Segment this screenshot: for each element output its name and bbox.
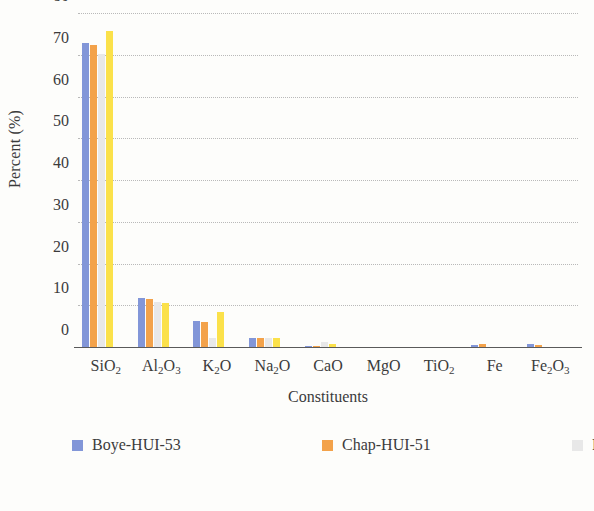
bar-group: CaO [300, 14, 356, 348]
y-axis-tick-label: 70 [53, 29, 69, 47]
bar [146, 299, 153, 348]
legend-label: Chap-HUI-51 [342, 436, 431, 454]
y-axis-tick-label: 80 [53, 0, 69, 5]
bar [98, 54, 105, 348]
bar [154, 302, 161, 348]
bar-group: Na2O [245, 14, 301, 348]
bar [193, 321, 200, 348]
plot-area: 01020304050607080 SiO2Al2O3K2ONa2OCaOMgO… [78, 14, 578, 348]
bar-groups: SiO2Al2O3K2ONa2OCaOMgOTiO2FeFe2O3 [78, 14, 578, 348]
bar [90, 45, 97, 348]
legend-swatch-icon [572, 440, 583, 451]
plot-inner: 01020304050607080 SiO2Al2O3K2ONa2OCaOMgO… [78, 14, 578, 348]
x-axis-tick-label: Fe2O3 [531, 357, 570, 375]
x-axis-line [74, 347, 582, 348]
x-axis-tick-label: MgO [367, 357, 401, 375]
bar-group: TiO2 [411, 14, 467, 348]
bar-group: MgO [356, 14, 412, 348]
bar [201, 322, 208, 348]
bar-chart-figure: Percent (%) 01020304050607080 SiO2Al2O3K… [0, 0, 594, 511]
y-axis-tick-label: 10 [53, 279, 69, 297]
y-axis-tick-label: 20 [53, 238, 69, 256]
bar [162, 303, 169, 348]
x-axis-tick-label: Fe [487, 357, 503, 375]
y-axis-tick-label: 60 [53, 71, 69, 89]
bar [138, 298, 145, 348]
y-axis-tick-label: 0 [61, 321, 69, 339]
x-axis-tick-label: TiO2 [424, 357, 455, 375]
y-axis-tick-label: 40 [53, 154, 69, 172]
y-axis-title: Percent (%) [6, 89, 24, 209]
legend-item[interactable]: Feldespato [572, 432, 594, 458]
legend-swatch-icon [72, 440, 83, 451]
bar-group: K2O [189, 14, 245, 348]
bar-group: Fe2O3 [523, 14, 579, 348]
x-axis-title: Constituents [78, 388, 578, 406]
x-axis-tick-label: K2O [203, 357, 232, 375]
x-axis-tick-label: SiO2 [91, 357, 121, 375]
bar-group: SiO2 [78, 14, 134, 348]
x-axis-tick-label: Na2O [255, 357, 291, 375]
legend-item[interactable]: Chap-HUI-51 [322, 432, 572, 458]
legend-label: Boye-HUI-53 [92, 436, 181, 454]
bar [106, 31, 113, 348]
y-axis-tick-label: 50 [53, 112, 69, 130]
bar [82, 43, 89, 348]
bar-group: Fe [467, 14, 523, 348]
y-axis-tick-label: 30 [53, 196, 69, 214]
chart-legend: Boye-HUI-53Chap-HUI-51FeldespatoIgnimbri… [72, 432, 572, 458]
bar [217, 312, 224, 348]
bar-group: Al2O3 [134, 14, 190, 348]
x-axis-tick-label: Al2O3 [142, 357, 181, 375]
x-axis-tick-label: CaO [313, 357, 342, 375]
legend-item[interactable]: Boye-HUI-53 [72, 432, 322, 458]
legend-swatch-icon [322, 440, 333, 451]
